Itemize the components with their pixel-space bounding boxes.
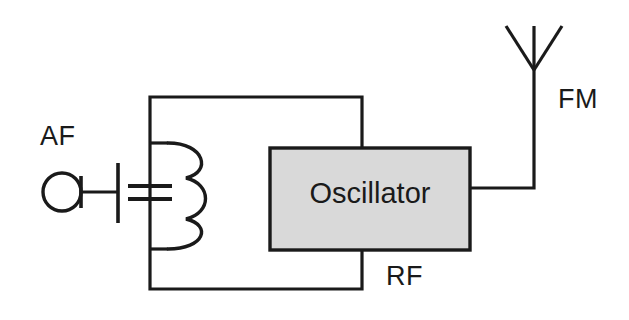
antenna-feed-wire	[470, 26, 534, 188]
circuit-schematic-canvas: Oscillator AF FM RF	[0, 0, 629, 320]
inductor-group	[150, 143, 206, 249]
bottom-feedback-wire-group	[150, 249, 362, 289]
inductor-coil-path	[168, 143, 206, 249]
antenna-arm-left	[506, 26, 534, 70]
oscillator-block-group[interactable]: Oscillator	[270, 148, 470, 250]
circuit-diagram: Oscillator AF FM RF	[0, 0, 629, 320]
af-source-circle	[43, 173, 81, 211]
af-source-group	[43, 163, 118, 223]
rf-label: RF	[386, 261, 423, 291]
top-feedback-wire-group	[150, 97, 362, 148]
top-connection-wire	[150, 97, 362, 148]
oscillator-label: Oscillator	[310, 177, 431, 209]
antenna-arm-right	[534, 26, 562, 70]
fm-label: FM	[558, 84, 598, 114]
antenna-feed-wire-group	[470, 26, 534, 188]
bottom-connection-wire	[150, 249, 362, 289]
af-label: AF	[40, 121, 76, 151]
capacitor-group	[128, 143, 172, 249]
